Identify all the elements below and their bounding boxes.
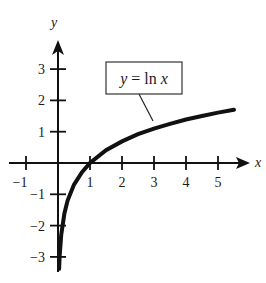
ln-graph: −112345 321−1−2−3 x y y = lnx	[0, 0, 266, 283]
y-tick-label: −1	[30, 187, 45, 202]
x-tick-label: 2	[119, 175, 126, 190]
annotation-label: y = lnx	[118, 70, 168, 88]
y-tick-label: 2	[38, 93, 45, 108]
y-tick-label: 3	[38, 62, 45, 77]
annotation-leader-line	[139, 94, 153, 121]
y-tick-label: 1	[38, 125, 45, 140]
annotation-eq: =	[127, 70, 144, 87]
y-axis-label: y	[49, 15, 58, 30]
x-tick-label: 4	[183, 175, 190, 190]
x-axis-label: x	[254, 155, 262, 170]
y-tick-label: −2	[30, 219, 45, 234]
annotation-fn: ln	[144, 70, 156, 87]
x-tick-label: 5	[215, 175, 222, 190]
x-tick-label: 3	[151, 175, 158, 190]
y-tick-label: −3	[30, 250, 45, 265]
ln-curve	[59, 110, 234, 269]
annotation-var: x	[160, 70, 168, 87]
x-tick-label: 1	[87, 175, 94, 190]
x-tick-label: −1	[13, 175, 28, 190]
